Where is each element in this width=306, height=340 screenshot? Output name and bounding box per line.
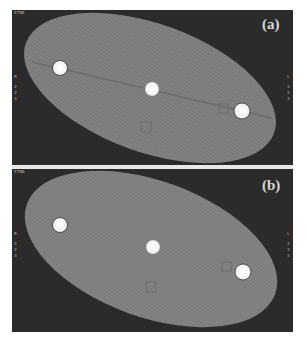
corner-label: STND bbox=[14, 10, 25, 15]
panel-label: (a) bbox=[262, 16, 280, 33]
marker-digit: 3 bbox=[13, 253, 18, 259]
marker-digit: 3 bbox=[13, 96, 18, 102]
insert-disc bbox=[145, 82, 159, 96]
ct-image-a bbox=[12, 10, 293, 165]
insert-disc bbox=[235, 264, 251, 280]
marker-digit: 3 bbox=[286, 253, 291, 259]
insert-disc bbox=[53, 61, 68, 76]
insert-disc bbox=[234, 103, 250, 119]
ct-panel-b: STND (b) R 2 2 3 L 2 2 3 bbox=[12, 169, 293, 332]
insert-disc bbox=[53, 218, 68, 233]
orientation-marker-right: L 2 2 3 bbox=[286, 74, 291, 102]
ct-panel-a: STND (a) R 2 2 3 L 2 2 3 bbox=[12, 10, 293, 165]
orientation-marker-left: R 2 2 3 bbox=[13, 231, 18, 259]
corner-label: STND bbox=[14, 169, 25, 174]
ct-image-b bbox=[12, 169, 293, 332]
panel-label: (b) bbox=[262, 177, 280, 194]
insert-disc bbox=[146, 240, 160, 254]
orientation-marker-right: L 2 2 3 bbox=[286, 231, 291, 259]
orientation-marker-left: R 2 2 3 bbox=[13, 74, 18, 102]
marker-digit: 3 bbox=[286, 96, 291, 102]
